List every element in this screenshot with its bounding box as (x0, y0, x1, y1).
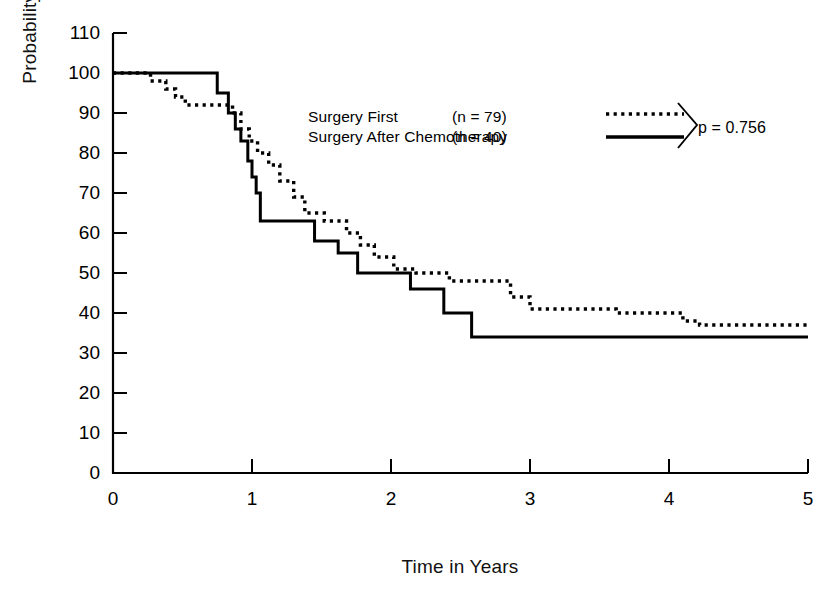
y-tick-label-0: 0 (48, 462, 100, 484)
y-tick-label-60: 60 (48, 222, 100, 244)
plot-area (0, 0, 840, 605)
y-tick-label-10: 10 (48, 422, 100, 444)
x-tick-label-2: 2 (376, 488, 406, 510)
x-tick-label-3: 3 (515, 488, 545, 510)
y-tick-label-50: 50 (48, 262, 100, 284)
y-tick-label-110: 110 (48, 22, 100, 44)
x-axis-title: Time in Years (330, 556, 590, 578)
y-tick-label-100: 100 (48, 62, 100, 84)
p-value-annotation: p = 0.756 (698, 119, 766, 137)
x-tick-label-5: 5 (793, 488, 823, 510)
y-tick-label-80: 80 (48, 142, 100, 164)
y-tick-label-20: 20 (48, 382, 100, 404)
x-tick-label-1: 1 (237, 488, 267, 510)
y-axis-title: Probability of Survival (10, 0, 50, 160)
legend-label-surgery-first: Surgery First (308, 108, 398, 126)
angle-bracket-right-icon (678, 103, 697, 148)
x-tick-label-4: 4 (654, 488, 684, 510)
y-tick-label-70: 70 (48, 182, 100, 204)
axis-lines (113, 33, 808, 473)
y-tick-label-30: 30 (48, 342, 100, 364)
legend-n-surgery-after-chemotherapy: (n = 40) (452, 128, 507, 146)
y-tick-label-40: 40 (48, 302, 100, 324)
legend-n-surgery-first: (n = 79) (452, 108, 507, 126)
y-tick-label-90: 90 (48, 102, 100, 124)
survival-chart-figure: Probability of Survival Time in Years 11… (0, 0, 840, 605)
x-tick-label-0: 0 (98, 488, 128, 510)
y-axis-ticks (113, 33, 127, 473)
x-axis-ticks (113, 459, 808, 473)
